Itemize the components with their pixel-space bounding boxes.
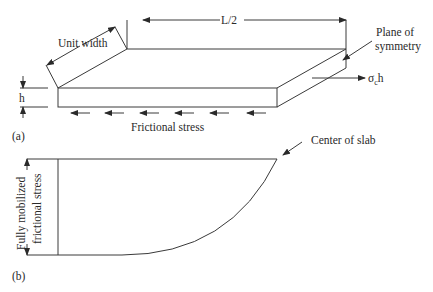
slab-front-face xyxy=(58,88,277,107)
center-of-slab-callout: Center of slab xyxy=(283,134,376,155)
half-length-dimension: L/2 xyxy=(127,14,346,49)
plane-of-symmetry-line1: Plane of xyxy=(376,26,414,38)
slab-friction-diagram: L/2 Unit width h Frictional stress Plane… xyxy=(0,0,433,292)
stress-distribution-plot: Fully mobilized frictional stress xyxy=(15,159,277,255)
plane-of-symmetry-line2: symmetry xyxy=(375,40,421,53)
slab-right-bottom-diagonal xyxy=(277,68,346,107)
yaxis-label-line2: frictional stress xyxy=(31,173,43,244)
yaxis-label-line1: Fully mobilized xyxy=(15,177,28,250)
plane-of-symmetry-callout: Plane of symmetry xyxy=(343,26,421,60)
thickness-dimension: h xyxy=(19,76,48,118)
unit-width-label: Unit width xyxy=(58,37,108,49)
part-b-tag: (b) xyxy=(12,270,26,283)
frictional-stress-label: Frictional stress xyxy=(131,121,205,133)
slab-3d xyxy=(58,49,346,107)
stress-curve xyxy=(122,159,277,255)
unit-width-dimension: Unit width xyxy=(46,27,127,88)
slab-right-top-diagonal xyxy=(277,49,346,88)
axial-force-arrow: σch xyxy=(312,72,384,87)
slab-left-diagonal xyxy=(58,49,127,88)
half-length-label: L/2 xyxy=(221,14,237,26)
part-a-tag: (a) xyxy=(12,130,25,143)
center-of-slab-label: Center of slab xyxy=(311,134,376,146)
force-label: σch xyxy=(368,72,384,87)
thickness-label: h xyxy=(19,92,25,104)
